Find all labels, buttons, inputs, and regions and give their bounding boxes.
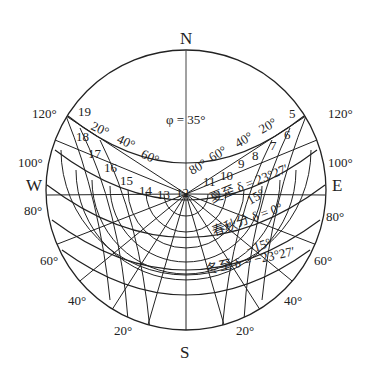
north-label: N: [180, 29, 192, 48]
altitude-left-20: 20°: [89, 118, 112, 139]
hour-14: 14: [139, 183, 153, 198]
azimuth-right-100: 100°: [328, 155, 353, 170]
azimuth-right-120: 120°: [328, 106, 353, 121]
sun-path-diagram: N S W E φ = 35° 120° 100° 80° 60° 40° 20…: [0, 0, 372, 367]
latitude-label: φ = 35°: [166, 112, 206, 127]
azimuth-left-60: 60°: [40, 253, 58, 268]
altitude-left-40: 40°: [115, 131, 138, 152]
altitude-left-60: 60°: [139, 146, 162, 167]
hour-7: 7: [270, 138, 277, 153]
hour-13: 13: [157, 187, 170, 202]
hour-10: 10: [220, 168, 233, 183]
azimuth-right-20: 20°: [236, 323, 254, 338]
azimuth-right-80: 80°: [326, 209, 344, 224]
hour-8: 8: [252, 148, 259, 163]
hour-19: 19: [78, 104, 91, 119]
hour-16: 16: [104, 160, 118, 175]
east-label: E: [332, 176, 342, 195]
azimuth-left-100: 100°: [18, 155, 43, 170]
azimuth-right-40: 40°: [284, 293, 302, 308]
hour-6: 6: [284, 127, 291, 142]
azimuth-left-20: 20°: [114, 323, 132, 338]
altitude-right-20: 20°: [256, 115, 279, 137]
azimuth-left-40: 40°: [68, 293, 86, 308]
azimuth-left-80: 80°: [24, 203, 42, 218]
west-label: W: [26, 176, 43, 195]
hour-15: 15: [120, 173, 133, 188]
equinox-label: 春秋分 δ = 0°: [210, 199, 285, 238]
south-label: S: [180, 343, 189, 362]
hour-9: 9: [238, 156, 245, 171]
hour-17: 17: [88, 146, 102, 161]
azimuth-left-120: 120°: [32, 106, 57, 121]
hour-18: 18: [76, 129, 89, 144]
azimuth-right-60: 60°: [314, 253, 332, 268]
hour-5: 5: [289, 106, 296, 121]
hour-11: 11: [203, 174, 216, 189]
hour-12: 12: [176, 185, 189, 200]
